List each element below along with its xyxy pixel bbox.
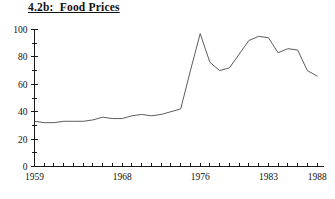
y-tick-label: 100 (13, 25, 28, 35)
food-prices-figure: 4.2b: Food Prices 020406080100 195919681… (0, 0, 335, 199)
x-tick-label: 1976 (191, 172, 210, 182)
x-axis: 19591968197619831988 (25, 163, 327, 182)
x-tick-label: 1959 (25, 172, 44, 182)
y-axis: 020406080100 (13, 25, 38, 172)
x-tick-label: 1983 (259, 172, 278, 182)
y-tick-label: 60 (18, 80, 28, 90)
y-tick-label: 80 (18, 52, 28, 62)
line-chart-plot: 020406080100 19591968197619831988 (0, 0, 335, 199)
x-tick-label: 1988 (308, 172, 327, 182)
data-series-group (35, 34, 318, 123)
data-line-food-prices (35, 34, 318, 123)
x-tick-label: 1968 (113, 172, 132, 182)
y-tick-label: 20 (18, 135, 28, 145)
y-tick-label: 0 (23, 162, 28, 172)
y-tick-label: 40 (18, 107, 28, 117)
